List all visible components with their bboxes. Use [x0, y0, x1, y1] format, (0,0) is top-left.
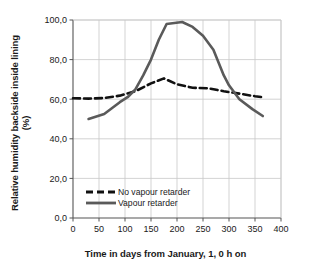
y-tick-label: 60,0 — [49, 95, 67, 105]
x-tick-label: 200 — [169, 224, 184, 234]
x-tick-label: 100 — [117, 224, 132, 234]
y-tick-label: 40,0 — [49, 134, 67, 144]
data-series — [73, 22, 263, 119]
x-tick-label: 0 — [70, 224, 75, 234]
plot-area: 0,020,040,060,080,0100,0 050100150200250… — [0, 0, 331, 270]
x-tick-label: 250 — [195, 224, 210, 234]
x-tick-label: 50 — [94, 224, 104, 234]
chart-legend: No vapour retarderVapour retarder — [86, 187, 190, 208]
y-tick-label: 0,0 — [54, 213, 67, 223]
y-tick-label: 20,0 — [49, 174, 67, 184]
series-line-no-vapour-retarder — [73, 78, 263, 98]
x-tick-label: 300 — [221, 224, 236, 234]
legend-label: Vapour retarder — [118, 198, 178, 208]
y-tick-label: 100,0 — [44, 15, 67, 25]
series-line-vapour-retarder — [89, 22, 263, 119]
x-tick-label: 150 — [143, 224, 158, 234]
x-tick-label: 400 — [273, 224, 288, 234]
chart-container: Relative humidity backside inside lining… — [0, 0, 331, 270]
x-tick-label: 350 — [247, 224, 262, 234]
x-tick-labels: 050100150200250300350400 — [70, 224, 288, 234]
legend-label: No vapour retarder — [118, 187, 190, 197]
y-tick-labels: 0,020,040,060,080,0100,0 — [44, 15, 67, 223]
x-axis-title: Time in days from January, 1, 0 h on — [0, 248, 331, 259]
y-tick-label: 80,0 — [49, 55, 67, 65]
